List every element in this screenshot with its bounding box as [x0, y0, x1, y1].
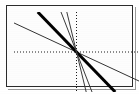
graph-canvas: [14, 12, 139, 92]
calculator-screen: [0, 0, 139, 94]
graph-plot-area[interactable]: [14, 12, 139, 92]
screen-frame: [6, 5, 133, 87]
